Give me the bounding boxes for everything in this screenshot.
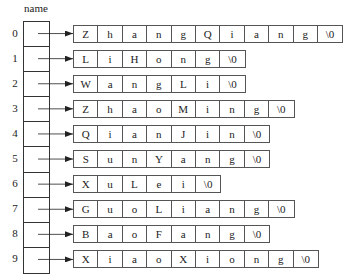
pointer-array-diagram: name 0123456789 ZhangQiang\0LiHong\0Wang… bbox=[0, 0, 346, 280]
pointer-arrows bbox=[0, 0, 346, 280]
